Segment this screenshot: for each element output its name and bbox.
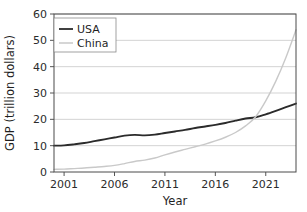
x-tick-label: 2006 xyxy=(101,178,129,191)
y-tick-label: 20 xyxy=(33,113,47,126)
legend-label-usa: USA xyxy=(77,23,100,36)
x-tick-label: 2016 xyxy=(201,178,229,191)
y-tick-label: 30 xyxy=(33,87,47,100)
y-axis-title: GDP (trillion dollars) xyxy=(3,35,17,151)
x-tick-label: 2011 xyxy=(151,178,179,191)
y-tick-label: 10 xyxy=(33,140,47,153)
x-tick-label: 2001 xyxy=(50,178,78,191)
y-tick-label: 40 xyxy=(33,61,47,74)
x-tick-label: 2021 xyxy=(252,178,280,191)
y-tick-label: 60 xyxy=(33,8,47,21)
chart-legend: USA China xyxy=(54,18,116,52)
gdp-line-chart: 0102030405060 20012006201120162021 Year … xyxy=(0,0,307,212)
y-tick-label: 0 xyxy=(40,166,47,179)
x-axis-title: Year xyxy=(162,194,188,208)
y-tick-label: 50 xyxy=(33,34,47,47)
legend-label-china: China xyxy=(77,37,108,50)
chart-figure: 0102030405060 20012006201120162021 Year … xyxy=(0,0,307,212)
